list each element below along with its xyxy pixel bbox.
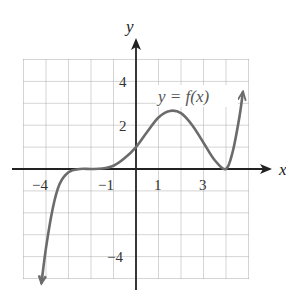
x-tick-neg1: −1 — [98, 177, 114, 193]
graph: x y −4 −1 1 3 4 2 −4 y = f(x) — [0, 0, 286, 292]
y-tick-neg4: −4 — [107, 249, 123, 265]
equation-label: y = f(x) — [156, 87, 209, 106]
function-curve — [42, 92, 243, 283]
x-axis-label: x — [278, 160, 286, 179]
x-tick-1: 1 — [154, 177, 162, 193]
x-tick-3: 3 — [199, 177, 207, 193]
y-tick-4: 4 — [119, 74, 127, 90]
x-tick-neg4: −4 — [32, 177, 48, 193]
y-tick-2: 2 — [119, 118, 127, 134]
y-axis-label: y — [124, 17, 134, 36]
